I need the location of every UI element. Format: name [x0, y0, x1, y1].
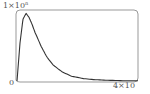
data-curve: [17, 13, 138, 81]
plot-frame: [16, 10, 138, 82]
plot-area: [0, 0, 150, 94]
